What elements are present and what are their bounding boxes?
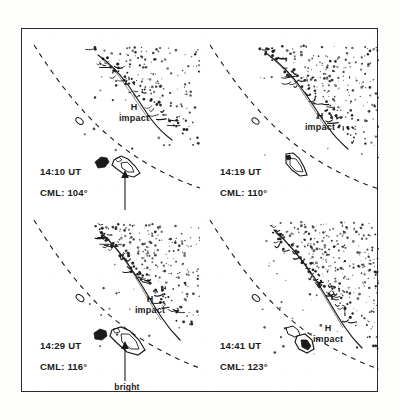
stipple-dot (338, 257, 340, 259)
stipple-dot (173, 258, 174, 259)
stipple-dot (168, 265, 169, 266)
stipple-dot (371, 227, 373, 229)
stipple-dot (153, 252, 155, 254)
stipple-dot (333, 245, 336, 248)
stipple-dot (354, 128, 356, 130)
limb-oval-feature-0 (75, 116, 85, 125)
stipple-dot (123, 229, 126, 232)
stipple-dot (314, 230, 316, 232)
stipple-dot (364, 46, 366, 48)
stipple-dot (357, 265, 359, 267)
stipple-dot (343, 262, 344, 263)
stipple-dot (117, 223, 120, 226)
stipple-dot (133, 46, 136, 49)
stipple-dot (191, 56, 193, 58)
stipple-dot (161, 239, 162, 240)
stipple-dot (359, 82, 360, 83)
stipple-dot (332, 70, 334, 72)
stipple-squiggle (178, 312, 185, 313)
stipple-dot (160, 231, 162, 233)
stipple-dot (361, 84, 362, 85)
stipple-dot (181, 233, 183, 235)
stipple-dot (337, 106, 339, 108)
stipple-dot (340, 267, 343, 270)
stipple-dot (197, 285, 199, 287)
stipple-dot (309, 262, 312, 265)
stipple-dot (164, 284, 165, 285)
stipple-dot (374, 322, 375, 323)
panel-0-time-label: 14:10 UT (40, 166, 81, 177)
stipple-dot (148, 224, 151, 227)
stipple-dot (300, 221, 303, 224)
stipple-dot (186, 108, 187, 109)
stipple-dot (152, 73, 154, 75)
stipple-dot (354, 99, 356, 101)
stipple-dot (300, 54, 303, 57)
stipple-dot (311, 58, 313, 60)
stipple-dot (314, 238, 315, 239)
stipple-dot (179, 272, 180, 273)
stipple-dot (175, 261, 177, 263)
stipple-dot (328, 249, 330, 251)
stipple-dot (120, 229, 122, 231)
stipple-dot (182, 292, 183, 293)
stipple-dot (153, 91, 155, 93)
stipple-dot (155, 58, 157, 60)
stipple-dot (263, 77, 265, 79)
stipple-dot (309, 293, 311, 295)
stipple-dot (151, 223, 153, 225)
stipple-dot (313, 249, 316, 252)
stipple-dot (327, 271, 329, 273)
stipple-dot (127, 252, 130, 255)
stipple-dot (346, 237, 348, 239)
stipple-dot (154, 230, 157, 233)
stipple-dot (369, 269, 371, 271)
stipple-squiggle (274, 242, 279, 243)
stipple-dot (367, 53, 369, 55)
stipple-dot (176, 277, 177, 278)
stipple-dot (124, 244, 125, 245)
stipple-dot (131, 262, 134, 265)
stipple-dot (368, 287, 370, 289)
stipple-squiggle (134, 91, 138, 92)
stipple-dot (343, 251, 344, 252)
stipple-dot (302, 44, 304, 46)
stipple-dot (190, 245, 192, 247)
stipple-dot (312, 268, 315, 271)
stipple-dot (145, 249, 147, 251)
stipple-dot (371, 246, 373, 248)
stipple-dot (132, 82, 134, 84)
stipple-dot (376, 292, 377, 293)
stipple-dot (187, 286, 188, 287)
stipple-dot (112, 99, 114, 101)
stipple-dot (329, 60, 332, 63)
stipple-dot (314, 79, 317, 82)
stipple-dot (192, 292, 195, 295)
stipple-dot (347, 133, 349, 135)
stipple-dot (353, 292, 354, 293)
stipple-dot (339, 302, 341, 304)
stipple-dot (126, 54, 127, 55)
stipple-dot (349, 95, 350, 96)
panel-2-impact-line1: H (122, 294, 178, 305)
stipple-dot (126, 47, 128, 49)
stipple-dot (369, 259, 371, 261)
stipple-dot (290, 222, 292, 224)
stipple-dot (144, 243, 146, 245)
stipple-dot (336, 240, 338, 242)
stipple-dot (189, 111, 191, 113)
stipple-dot (304, 233, 305, 234)
stipple-dot (118, 292, 120, 294)
impact-stipple-region-0 (84, 46, 200, 151)
stipple-dot (110, 52, 113, 55)
stipple-dot (187, 65, 189, 67)
stipple-dot (343, 80, 344, 81)
stipple-dot (315, 93, 317, 95)
stipple-dot (310, 258, 311, 259)
stipple-dot (155, 85, 157, 87)
stipple-dot (186, 296, 188, 298)
stipple-dot (340, 221, 342, 223)
stipple-dot (360, 227, 361, 228)
stipple-dot (141, 89, 143, 91)
stipple-dot (178, 244, 181, 247)
